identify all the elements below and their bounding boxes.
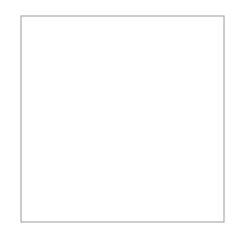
- line-chart: [0, 0, 236, 242]
- plot-frame: [21, 16, 224, 222]
